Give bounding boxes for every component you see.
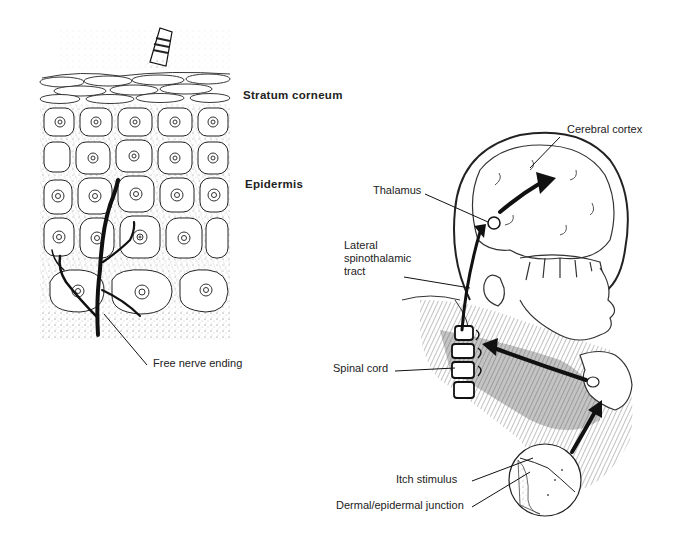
label-itch-stimulus: Itch stimulus: [396, 473, 457, 486]
spinal-vertebrae: [452, 326, 474, 398]
ear: [484, 275, 505, 306]
illustration: [0, 0, 682, 546]
label-spinal-cord: Spinal cord: [333, 362, 388, 375]
stratum-corneum-layer: [40, 72, 230, 103]
skin-cross-section: [40, 28, 230, 340]
thalamus-node: [488, 217, 500, 229]
magnified-skin-inset: [509, 444, 581, 516]
brain-outline: [472, 145, 614, 259]
label-lateral-spinothalamic-tract: Lateral spinothalamic tract: [344, 239, 411, 278]
label-stratum-corneum: Stratum corneum: [243, 89, 343, 102]
label-dermal-epidermal-junction: Dermal/epidermal junction: [336, 499, 464, 512]
label-cerebral-cortex: Cerebral cortex: [567, 123, 642, 136]
label-free-nerve-ending: Free nerve ending: [153, 357, 242, 370]
label-thalamus: Thalamus: [373, 184, 421, 197]
itch-pathway-figure: [402, 133, 633, 516]
label-epidermis: Epidermis: [245, 178, 303, 191]
